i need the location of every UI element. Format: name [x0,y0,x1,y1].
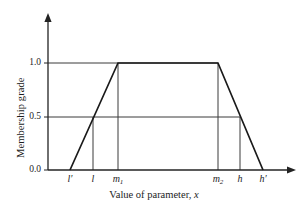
y-tick-label-0.5: 0.5 [18,111,41,121]
x-axis-title: Value of parameter, x [0,189,308,200]
x-tick-label-h-prime: h′ [253,173,273,184]
x-tick-label-l: l [83,173,103,184]
x-tick-label-l-prime: l′ [60,173,80,184]
x-tick-label-l-base: l [92,173,95,184]
axes [44,13,296,174]
y-tick-label-0.0: 0.0 [18,164,41,174]
x-axis-arrow-icon [287,166,296,173]
x-axis-title-variable: x [194,189,199,200]
x-tick-label-h-base: h [238,173,243,184]
figure-container: Membership grade 1.0 0.5 0.0 l′ l m1 m2 … [0,0,308,207]
y-axis-arrow-icon [44,13,51,22]
y-tick-label-1.0: 1.0 [18,57,41,67]
x-tick-label-m2-sub: 2 [220,178,224,186]
x-tick-label-m1-sub: 1 [120,178,124,186]
x-tick-label-l-prime-mark: ′ [70,173,72,184]
x-axis-title-text: Value of parameter, [109,189,191,200]
x-tick-label-m2-base: m [213,173,220,184]
x-tick-label-h: h [230,173,250,184]
x-tick-label-h-prime-mark: ′ [264,173,266,184]
x-tick-label-m1: m1 [107,173,129,184]
x-tick-label-m1-base: m [113,173,120,184]
x-tick-label-m2: m2 [207,173,229,184]
